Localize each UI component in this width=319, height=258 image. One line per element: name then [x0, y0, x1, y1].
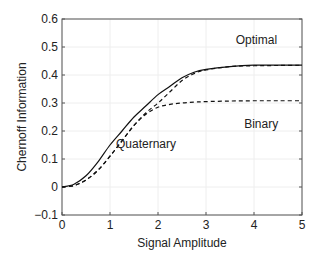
x-tick-label: 1	[107, 218, 114, 232]
x-tick-label: 4	[251, 218, 258, 232]
y-tick-label: 0.2	[41, 124, 58, 138]
y-tick-label: 0.1	[41, 152, 58, 166]
x-axis-label: Signal Amplitude	[137, 236, 227, 250]
annotation-quaternary: Quaternary	[116, 137, 176, 151]
y-tick-label: 0.6	[41, 12, 58, 26]
chart-svg: 012345−0.100.10.20.30.40.50.6Signal Ampl…	[0, 0, 319, 258]
y-tick-label: 0	[51, 180, 58, 194]
x-tick-label: 0	[59, 218, 66, 232]
y-tick-label: 0.5	[41, 40, 58, 54]
y-tick-label: 0.3	[41, 96, 58, 110]
annotation-optimal: Optimal	[236, 33, 277, 47]
annotation-binary: Binary	[244, 117, 278, 131]
chart: 012345−0.100.10.20.30.40.50.6Signal Ampl…	[0, 0, 319, 258]
y-axis-label: Chernoff Information	[15, 62, 29, 171]
x-tick-label: 5	[299, 218, 306, 232]
y-tick-label: 0.4	[41, 68, 58, 82]
y-tick-label: −0.1	[34, 208, 58, 222]
x-tick-label: 3	[203, 218, 210, 232]
x-tick-label: 2	[155, 218, 162, 232]
series-binary	[62, 101, 302, 187]
